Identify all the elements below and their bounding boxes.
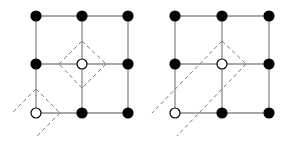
left-lattice-panel: [12, 11, 133, 137]
filled-node: [264, 108, 274, 118]
open-node: [217, 59, 227, 69]
open-node: [170, 108, 180, 118]
open-node: [31, 108, 41, 118]
filled-node: [123, 108, 133, 118]
filled-node: [264, 11, 274, 21]
filled-node: [217, 11, 227, 21]
filled-node: [123, 59, 133, 69]
open-node: [77, 59, 87, 69]
right-lattice-panel: [152, 11, 274, 136]
filled-node: [170, 11, 180, 21]
filled-node: [170, 59, 180, 69]
filled-node: [217, 108, 227, 118]
lattice-diagram: [0, 0, 289, 142]
filled-node: [77, 108, 87, 118]
dashed-line: [177, 64, 246, 136]
filled-node: [31, 59, 41, 69]
dashed-line: [152, 41, 222, 113]
filled-node: [123, 11, 133, 21]
filled-node: [31, 11, 41, 21]
filled-node: [264, 59, 274, 69]
filled-node: [77, 11, 87, 21]
